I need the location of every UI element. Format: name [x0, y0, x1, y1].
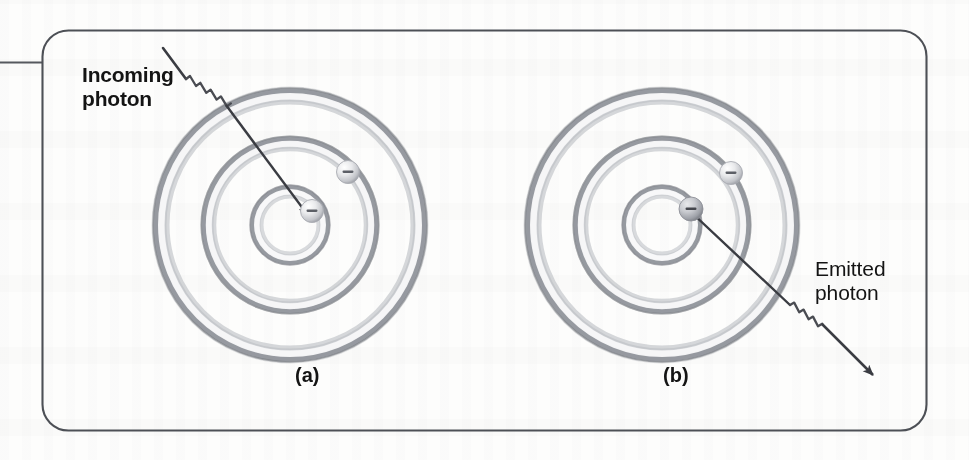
- panel-b: [525, 88, 873, 375]
- panel-a-electron-inner: [301, 200, 324, 223]
- panel-a: [153, 48, 427, 362]
- panel-a-caption: (a): [295, 364, 319, 386]
- panel-a-shell-1: [250, 185, 330, 265]
- figure-page: Incoming photon Emitted photon (a) (b): [0, 0, 969, 460]
- panel-a-shells: [153, 88, 427, 362]
- panel-b-shells: [525, 88, 799, 362]
- panel-a-electron-outer: [337, 161, 360, 184]
- emitted-photon-label-line1: Emitted: [815, 257, 886, 281]
- incoming-photon-label-line2: photon: [82, 87, 174, 111]
- panel-b-shell-3: [525, 88, 799, 362]
- emitted-photon-label-line2: photon: [815, 281, 886, 305]
- panel-b-caption: (b): [663, 364, 689, 386]
- panel-b-shell-2: [573, 136, 751, 314]
- incoming-photon-label-line1: Incoming: [82, 63, 174, 87]
- panel-b-electron-inner: [679, 197, 703, 221]
- emitted-photon-label: Emitted photon: [815, 257, 886, 304]
- panel-b-electron-outer: [720, 162, 743, 185]
- incoming-photon-label: Incoming photon: [82, 63, 174, 110]
- panel-a-shell-3: [153, 88, 427, 362]
